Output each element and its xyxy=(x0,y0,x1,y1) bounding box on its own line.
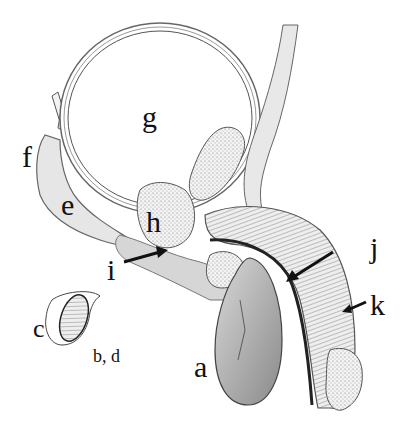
label-k: k xyxy=(370,290,385,320)
label-e: e xyxy=(61,190,74,220)
glans xyxy=(326,348,362,410)
label-b-d: b, d xyxy=(93,347,120,365)
label-i: i xyxy=(107,255,115,285)
testis-section xyxy=(46,291,100,345)
label-g: g xyxy=(142,102,157,132)
label-a: a xyxy=(194,352,207,382)
label-j: j xyxy=(370,233,378,263)
label-f: f xyxy=(22,142,32,172)
label-c: c xyxy=(33,316,45,342)
label-h: h xyxy=(146,207,161,237)
